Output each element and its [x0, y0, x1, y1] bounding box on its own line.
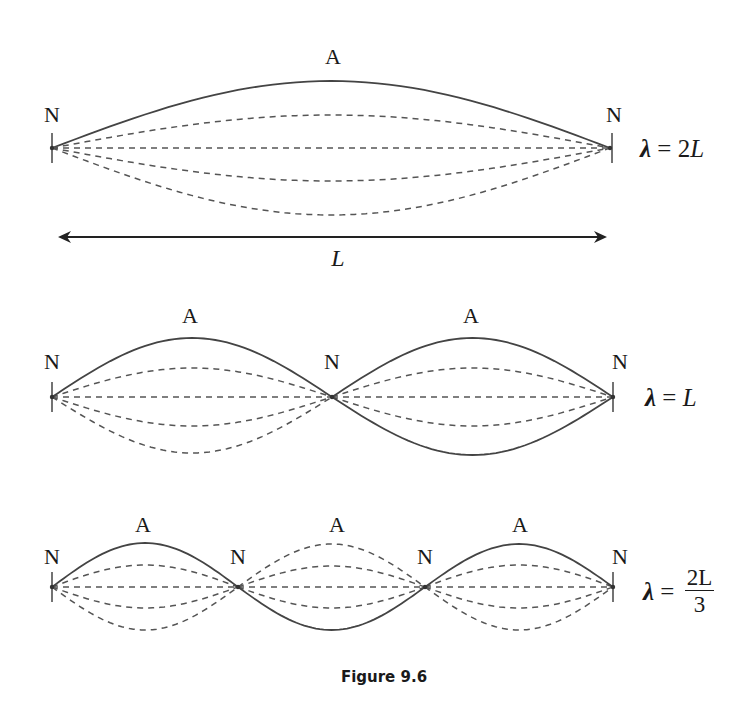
- node-point: [330, 395, 334, 399]
- dashed-wave-curve: [52, 368, 332, 397]
- node-label: N: [324, 351, 340, 373]
- dashed-wave-curve: [425, 587, 613, 608]
- node-label: N: [230, 546, 246, 568]
- solid-wave-curve: [238, 587, 425, 630]
- standing-waves-canvas: [0, 0, 748, 715]
- dashed-wave-curve: [238, 544, 425, 587]
- fraction-denominator: 3: [694, 591, 706, 616]
- equals-sign: =: [656, 384, 683, 411]
- dashed-wave-curve: [52, 587, 238, 630]
- length-variable: L: [690, 135, 704, 162]
- node-point: [50, 146, 54, 150]
- dashed-wave-curve: [332, 368, 613, 397]
- dashed-wave-curve: [238, 566, 425, 587]
- coefficient: 2: [678, 135, 691, 162]
- node-label: N: [417, 546, 433, 568]
- node-point: [50, 585, 54, 589]
- lambda-symbol: λ: [640, 135, 651, 162]
- node-point: [608, 146, 612, 150]
- node-label: N: [44, 104, 60, 126]
- dashed-wave-curve: [52, 148, 610, 215]
- solid-wave-curve: [52, 543, 238, 587]
- dashed-wave-curve: [52, 397, 332, 453]
- antinode-label: A: [512, 514, 528, 536]
- dashed-wave-curve: [52, 115, 610, 148]
- wavelength-equation-third: λ = 2L 3: [643, 566, 714, 616]
- solid-wave-curve: [52, 81, 610, 148]
- length-label: L: [331, 246, 344, 270]
- node-label: N: [612, 351, 628, 373]
- length-variable: L: [683, 384, 697, 411]
- antinode-label: A: [463, 305, 479, 327]
- dashed-wave-curve: [52, 148, 610, 181]
- dashed-wave-curve: [52, 587, 238, 608]
- caption-text: Figure 9.6: [341, 668, 427, 686]
- fraction-numerator: 2L: [685, 566, 715, 591]
- wavelength-equation-second: λ = L: [645, 385, 697, 410]
- node-label: N: [44, 351, 60, 373]
- antinode-label: A: [325, 46, 341, 68]
- antinode-label: A: [329, 514, 345, 536]
- node-point: [50, 395, 54, 399]
- lambda-symbol: λ: [645, 384, 656, 411]
- wavelength-equation-fundamental: λ = 2L: [640, 136, 704, 161]
- solid-wave-curve: [425, 544, 613, 587]
- node-label: N: [612, 546, 628, 568]
- antinode-label: A: [182, 305, 198, 327]
- node-point: [423, 585, 427, 589]
- equals-sign: =: [651, 135, 678, 162]
- dashed-wave-curve: [332, 397, 613, 426]
- lambda-symbol: λ: [643, 579, 654, 604]
- node-label: N: [44, 546, 60, 568]
- standing-wave-figure: N N A λ = 2L L N N N A A λ = L N N N N A…: [0, 0, 748, 715]
- dashed-wave-curve: [238, 587, 425, 608]
- antinode-label: A: [135, 514, 151, 536]
- node-point: [611, 585, 615, 589]
- node-label: N: [606, 104, 622, 126]
- equals-sign: =: [654, 579, 681, 604]
- node-point: [611, 395, 615, 399]
- dashed-wave-curve: [425, 587, 613, 630]
- node-point: [236, 585, 240, 589]
- figure-caption: Figure 9.6: [0, 668, 748, 686]
- fraction: 2L 3: [685, 566, 715, 616]
- dashed-wave-curve: [52, 565, 238, 587]
